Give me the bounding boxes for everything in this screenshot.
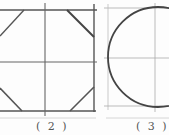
figure-2-octagon xyxy=(0,3,97,116)
figure-3-circle xyxy=(104,3,169,112)
figure-2-label: ( 2 ) xyxy=(36,120,69,133)
drawing-steps-diagram xyxy=(0,0,169,135)
diagram-canvas: ( 2 ) ( 3 ) xyxy=(0,0,169,135)
figure-3-label: ( 3 ) xyxy=(136,120,169,133)
